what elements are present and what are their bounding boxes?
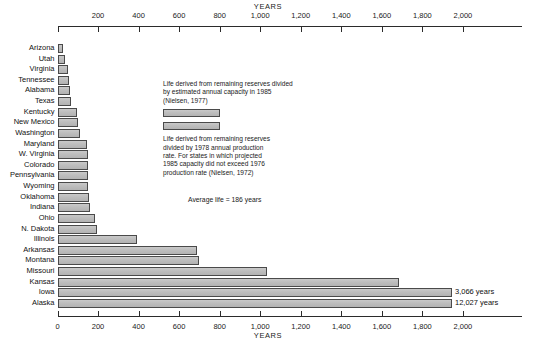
bar-category-label: Utah <box>39 54 55 64</box>
chart-legend: Life derived from remaining reserves div… <box>163 80 339 177</box>
bar <box>58 299 453 308</box>
bar-row: Utah <box>0 55 536 64</box>
legend-swatch-1978-production <box>163 122 220 130</box>
bar-row: Oklahoma <box>0 193 536 202</box>
bar-row: Missouri <box>0 267 536 276</box>
legend-entry-2-text: Life derived from remaining reserves div… <box>163 135 339 177</box>
bar-category-label: Colorado <box>24 160 54 170</box>
bar-row: Arkansas <box>0 246 536 255</box>
bar-category-label: N. Dakota <box>21 224 54 234</box>
bar-category-label: Washington <box>15 128 54 138</box>
bar <box>58 129 80 138</box>
bar <box>58 171 88 180</box>
bar-category-label: Wyoming <box>23 181 54 191</box>
bar <box>58 65 68 74</box>
bar-category-label: Maryland <box>24 139 55 149</box>
bar-value-label: 3,066 years <box>455 287 494 297</box>
bar-row: Alaska12,027 years <box>0 299 536 308</box>
bar-row: Virginia <box>0 65 536 74</box>
bar <box>58 118 78 127</box>
bar-category-label: Indiana <box>30 202 55 212</box>
bar-row: Kansas <box>0 278 536 287</box>
legend-entry-1-text: Life derived from remaining reserves div… <box>163 80 339 105</box>
bar-row: Arizona <box>0 44 536 53</box>
bar-category-label: Virginia <box>30 64 55 74</box>
bar-row: N. Dakota <box>0 225 536 234</box>
bar <box>58 86 70 95</box>
bar-category-label: Alabama <box>25 85 55 95</box>
bar <box>58 182 88 191</box>
bar-category-label: Kansas <box>29 277 54 287</box>
bar <box>58 267 268 276</box>
bar <box>58 214 95 223</box>
bar-row: Indiana <box>0 203 536 212</box>
bar-category-label: Illinois <box>34 234 55 244</box>
bar-category-label: Arizona <box>29 43 54 53</box>
bar-category-label: Montana <box>25 255 54 265</box>
bar <box>58 246 198 255</box>
bar-category-label: Tennessee <box>18 75 54 85</box>
bar-row: Wyoming <box>0 182 536 191</box>
bar-chart: YEARS YEARS 02004006008001,0001,2001,400… <box>0 0 536 343</box>
bar-category-label: Kentucky <box>24 107 55 117</box>
bar-row: Ohio <box>0 214 536 223</box>
average-life-annotation: Average life = 186 years <box>188 196 261 203</box>
bar-category-label: Iowa <box>39 287 55 297</box>
bar-row: Illinois <box>0 235 536 244</box>
bar <box>58 193 89 202</box>
bar-category-label: Missouri <box>27 266 55 276</box>
bar-category-label: Pennsylvania <box>10 170 55 180</box>
bar-category-label: Ohio <box>39 213 55 223</box>
bar-category-label: Texas <box>35 96 55 106</box>
bar <box>58 140 87 149</box>
bar <box>58 76 69 85</box>
bar-row: Iowa3,066 years <box>0 288 536 297</box>
bar <box>58 288 453 297</box>
bar-value-label: 12,027 years <box>455 298 498 308</box>
bar <box>58 161 88 170</box>
bar <box>58 55 65 64</box>
bar <box>58 235 137 244</box>
bar <box>58 150 88 159</box>
bar <box>58 278 400 287</box>
bar-category-label: Alaska <box>32 298 55 308</box>
bar <box>58 97 71 106</box>
bar-category-label: Arkansas <box>23 245 54 255</box>
bar-category-label: W. Virginia <box>19 149 55 159</box>
bar <box>58 108 77 117</box>
bar <box>58 203 90 212</box>
legend-swatch-1985-capacity <box>163 109 220 117</box>
bar <box>58 256 200 265</box>
bar-category-label: Oklahoma <box>20 192 54 202</box>
bar-category-label: New Mexico <box>14 117 55 127</box>
bar-row: Montana <box>0 256 536 265</box>
bar <box>58 225 98 234</box>
bar <box>58 44 63 53</box>
